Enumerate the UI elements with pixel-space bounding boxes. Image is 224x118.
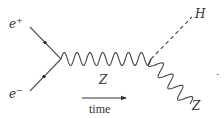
electron-arrow-icon — [42, 75, 45, 78]
time-label: time — [89, 102, 110, 116]
z-outgoing-label: Z — [191, 99, 201, 113]
higgs-dashed-line — [151, 17, 192, 59]
feynman-diagram: e+ e− Z H Z time . — [0, 0, 224, 118]
electron-label: e− — [9, 86, 23, 101]
electron-line — [30, 59, 61, 91]
higgs-label: H — [194, 7, 206, 21]
positron-arrow-icon — [43, 41, 46, 44]
trailing-dot: . — [216, 66, 219, 77]
positron-label: e+ — [9, 16, 23, 31]
z-propagator-wave — [61, 53, 151, 66]
positron-line — [30, 27, 61, 59]
z-propagator-label: Z — [98, 73, 108, 87]
z-outgoing-wave — [148, 59, 192, 104]
